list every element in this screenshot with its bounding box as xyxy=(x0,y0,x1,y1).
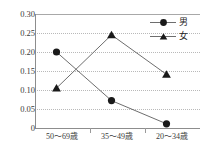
data-point xyxy=(53,48,60,55)
legend: 男 女 xyxy=(150,15,202,43)
data-point xyxy=(107,31,116,38)
data-point xyxy=(163,120,170,127)
legend-item-male: 男 xyxy=(150,15,202,29)
legend-swatch-circle-icon xyxy=(150,16,176,28)
data-point xyxy=(108,97,115,104)
legend-item-female: 女 xyxy=(150,29,202,43)
data-point xyxy=(162,70,171,77)
legend-label-male: 男 xyxy=(176,18,188,27)
legend-swatch-triangle-icon xyxy=(150,30,176,42)
line-chart: 0.30 0.25 0.20 0.15 0.10 0.05 0 50〜69歳 3… xyxy=(0,0,207,150)
legend-label-female: 女 xyxy=(176,32,188,41)
series-markers-male xyxy=(53,48,170,127)
